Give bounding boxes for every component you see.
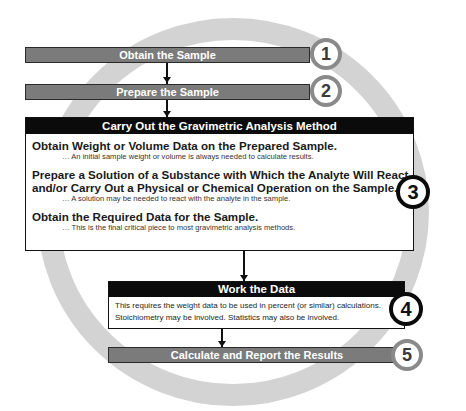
step-1-bar: Obtain the Sample xyxy=(25,47,310,63)
item-title: Prepare a Solution of a Substance with W… xyxy=(32,168,413,181)
arrow-down-icon xyxy=(218,341,226,347)
arrow-down-icon xyxy=(163,111,171,117)
step-4-header: Work the Data xyxy=(109,282,404,297)
arrow-down-icon xyxy=(240,275,248,281)
step-3-item: Obtain Weight or Volume Data on the Prep… xyxy=(26,139,413,162)
step-4-box: Work the Data This requires the weight d… xyxy=(108,281,405,329)
step-4-body-line: This requires the weight data to be used… xyxy=(115,300,404,312)
step-4-number-badge: 4 xyxy=(389,292,423,326)
step-1-label: Obtain the Sample xyxy=(119,49,216,61)
step-2-bar: Prepare the Sample xyxy=(25,84,310,100)
step-2-label: Prepare the Sample xyxy=(116,86,219,98)
step-2-number-badge: 2 xyxy=(310,75,342,107)
step-3-item: Prepare a Solution of a Substance with W… xyxy=(26,168,413,204)
step-4-body: This requires the weight data to be used… xyxy=(109,297,404,324)
step-5-number-badge: 5 xyxy=(391,339,423,371)
item-note: … An initial sample weight or volume is … xyxy=(62,152,413,162)
step-1-number-badge: 1 xyxy=(310,38,342,70)
step-4-body-line: Stoichiometry may be involved. Statistic… xyxy=(115,312,404,324)
step-3-number-badge: 3 xyxy=(396,175,430,209)
item-title: Obtain the Required Data for the Sample. xyxy=(32,210,413,223)
step-3-item: Obtain the Required Data for the Sample.… xyxy=(26,210,413,233)
step-3-header: Carry Out the Gravimetric Analysis Metho… xyxy=(26,118,413,134)
arrow-down-icon xyxy=(163,77,171,83)
step-3-items: Obtain Weight or Volume Data on the Prep… xyxy=(26,139,413,233)
item-note: … A solution may be needed to react with… xyxy=(62,194,413,204)
item-title: Obtain Weight or Volume Data on the Prep… xyxy=(32,139,413,152)
item-title: and/or Carry Out a Physical or Chemical … xyxy=(32,181,413,194)
step-3-box: Carry Out the Gravimetric Analysis Metho… xyxy=(25,117,414,251)
item-note: … This is the final critical piece to mo… xyxy=(62,223,413,233)
step-5-label: Calculate and Report the Results xyxy=(171,349,343,361)
step-5-bar: Calculate and Report the Results xyxy=(108,347,406,363)
